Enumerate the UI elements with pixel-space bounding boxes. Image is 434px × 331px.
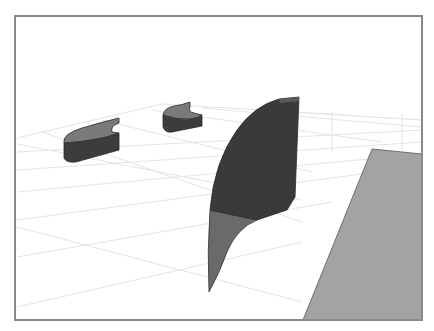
3d-viewport[interactable]: [14, 15, 423, 321]
flat-plane[interactable]: [303, 149, 421, 319]
fin-lower-face: [208, 210, 257, 292]
fin-upper-face: [210, 97, 299, 220]
curved-fin[interactable]: [208, 97, 299, 292]
